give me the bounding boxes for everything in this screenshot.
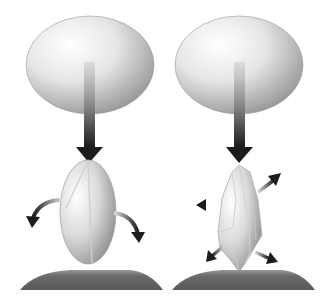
compression-diagram	[0, 0, 332, 301]
right-curved-arrow-icon	[114, 213, 138, 234]
right-panel	[172, 16, 315, 290]
right-curved-arrowhead	[131, 232, 145, 243]
right-force-stem	[234, 62, 245, 147]
right-faceted-crystal	[218, 165, 262, 272]
left-curved-arrowhead	[26, 216, 40, 228]
diagram-canvas	[0, 0, 332, 301]
right-ground-surface	[172, 270, 315, 290]
left-arrowhead-icon	[196, 199, 206, 211]
down-right-arrow-shaft	[255, 252, 268, 258]
left-panel	[20, 16, 163, 290]
left-split-seed	[60, 160, 116, 264]
left-ground-surface	[20, 270, 163, 290]
left-force-stem	[84, 62, 95, 147]
right-down-arrow-icon	[226, 147, 253, 163]
up-right-arrow-shaft	[258, 180, 274, 192]
left-curved-arrow-icon	[33, 200, 62, 218]
